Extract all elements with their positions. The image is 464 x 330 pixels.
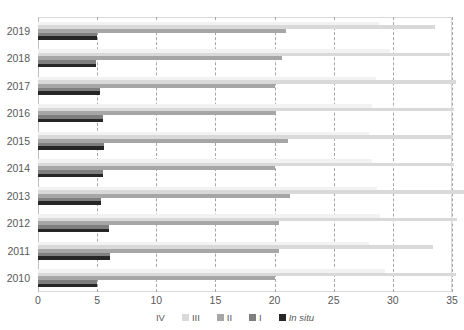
bar-row — [38, 36, 452, 40]
legend-label: In situ — [289, 312, 314, 323]
y-axis-tick-label-2014: 2014 — [7, 162, 30, 174]
legend-label: III — [192, 312, 200, 323]
year-group-2013 — [38, 182, 452, 210]
bar-row — [38, 256, 452, 260]
bar-in-situ-2017 — [38, 91, 100, 95]
gridline-x-35 — [452, 17, 453, 292]
bar-in-situ-2016 — [38, 119, 103, 123]
x-axis-tick-label-15: 15 — [210, 294, 222, 306]
plot-area — [38, 17, 452, 292]
bar-row — [38, 174, 452, 178]
legend-label: II — [227, 312, 232, 323]
x-axis-labels: 05101520253035 — [38, 294, 452, 310]
y-axis-tick-label-2016: 2016 — [7, 107, 30, 119]
x-axis-tick-label-30: 30 — [387, 294, 399, 306]
legend-label: IV — [156, 312, 165, 323]
x-axis-tick-label-20: 20 — [269, 294, 281, 306]
bar-in-situ-2015 — [38, 146, 104, 150]
year-group-2018 — [38, 45, 452, 73]
y-axis-tick-label-2018: 2018 — [7, 52, 30, 64]
bar-row — [38, 201, 452, 205]
bar-in-situ-2011 — [38, 256, 110, 260]
y-axis-tick-label-2019: 2019 — [7, 25, 30, 37]
y-axis-tick-label-2012: 2012 — [7, 217, 30, 229]
bar-row — [38, 146, 452, 150]
x-axis-tick-label-25: 25 — [328, 294, 340, 306]
bar-row — [38, 64, 452, 68]
year-group-2017 — [38, 72, 452, 100]
bar-in-situ-2013 — [38, 201, 101, 205]
y-axis-tick-label-2010: 2010 — [7, 272, 30, 284]
legend-swatch-icon — [146, 314, 153, 321]
year-group-2012 — [38, 210, 452, 238]
legend-item-in-situ[interactable]: In situ — [279, 312, 314, 323]
legend-label: I — [259, 312, 262, 323]
x-axis-tick-label-35: 35 — [446, 294, 458, 306]
y-axis-labels: 2019201820172016201520142013201220112010 — [0, 17, 34, 292]
bar-in-situ-2019 — [38, 36, 97, 40]
year-group-2014 — [38, 155, 452, 183]
bar-in-situ-2012 — [38, 229, 109, 233]
legend-item-iv[interactable]: IV — [146, 312, 165, 323]
y-axis-tick-label-2013: 2013 — [7, 190, 30, 202]
x-axis-tick-label-0: 0 — [35, 294, 41, 306]
bar-row — [38, 91, 452, 95]
bar-row — [38, 284, 452, 288]
x-axis-tick-label-10: 10 — [150, 294, 162, 306]
legend-swatch-icon — [217, 314, 224, 321]
legend-swatch-icon — [279, 314, 286, 321]
legend-swatch-icon — [249, 314, 256, 321]
year-group-2015 — [38, 127, 452, 155]
bar-in-situ-2014 — [38, 174, 103, 178]
year-group-2016 — [38, 100, 452, 128]
bar-in-situ-2010 — [38, 284, 97, 288]
x-axis-tick-label-5: 5 — [94, 294, 100, 306]
legend-item-i[interactable]: I — [249, 312, 262, 323]
legend-item-ii[interactable]: II — [217, 312, 232, 323]
year-group-2010 — [38, 265, 452, 293]
legend-swatch-icon — [182, 314, 189, 321]
bar-row — [38, 119, 452, 123]
bar-row — [38, 229, 452, 233]
year-group-2011 — [38, 237, 452, 265]
y-axis-tick-label-2015: 2015 — [7, 135, 30, 147]
legend-item-iii[interactable]: III — [182, 312, 200, 323]
year-group-2019 — [38, 17, 452, 45]
chart-legend: IVIIIIIIIn situ — [0, 312, 460, 323]
y-axis-tick-label-2011: 2011 — [7, 245, 30, 257]
bar-in-situ-2018 — [38, 64, 96, 68]
y-axis-tick-label-2017: 2017 — [7, 80, 30, 92]
